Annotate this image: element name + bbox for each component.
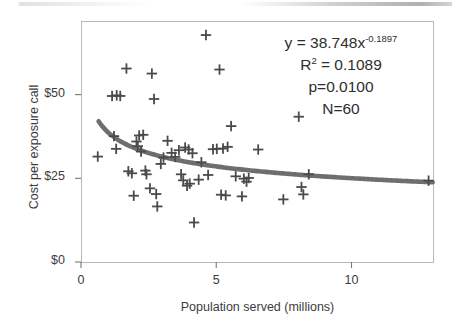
statistics-annotation: y = 38.748x-0.1897R2 = 0.1089p=0.0100N=6… bbox=[252, 32, 430, 120]
annotation-equation: y = 38.748x-0.1897 bbox=[252, 32, 430, 54]
annotation-text: R bbox=[300, 56, 311, 73]
data-point-marker bbox=[222, 142, 232, 152]
data-point-marker bbox=[145, 183, 155, 193]
annotation-tail: = 0.1089 bbox=[317, 56, 382, 73]
data-point-marker bbox=[93, 151, 103, 161]
data-point-marker bbox=[298, 189, 308, 199]
data-point-marker bbox=[121, 63, 131, 73]
data-point-marker bbox=[218, 143, 228, 153]
annotation-sample-size: N=60 bbox=[252, 98, 430, 120]
data-point-marker bbox=[193, 174, 203, 184]
data-point-marker bbox=[129, 191, 139, 201]
annotation-superscript: -0.1897 bbox=[365, 33, 397, 44]
data-point-marker bbox=[149, 94, 159, 104]
y-tick-label: $25 bbox=[25, 169, 65, 183]
data-point-marker bbox=[201, 30, 211, 40]
x-tick-label: 5 bbox=[196, 273, 236, 287]
data-point-marker bbox=[156, 159, 166, 169]
data-point-marker bbox=[214, 64, 224, 74]
data-point-marker bbox=[151, 189, 161, 199]
data-point-marker bbox=[147, 68, 157, 78]
data-point-marker bbox=[162, 136, 172, 146]
y-tick-label: $0 bbox=[25, 253, 65, 267]
data-point-marker bbox=[296, 182, 306, 192]
data-point-marker bbox=[176, 169, 186, 179]
data-point-marker bbox=[226, 121, 236, 131]
annotation-p-value: p=0.0100 bbox=[252, 76, 430, 98]
data-point-marker bbox=[253, 144, 263, 154]
data-point-marker bbox=[237, 191, 247, 201]
data-point-marker bbox=[189, 217, 199, 227]
data-point-marker bbox=[152, 201, 162, 211]
data-point-marker bbox=[231, 171, 241, 181]
annotation-text: N=60 bbox=[322, 100, 360, 117]
data-point-marker bbox=[221, 190, 231, 200]
annotation-r-squared: R2 = 0.1089 bbox=[252, 54, 430, 76]
data-point-marker bbox=[203, 170, 213, 180]
fit-curve bbox=[99, 121, 433, 182]
x-tick-label: 0 bbox=[61, 273, 101, 287]
y-tick-label: $50 bbox=[25, 86, 65, 100]
regression-curve bbox=[99, 121, 433, 182]
scatter-chart: Cost per exposure call Population served… bbox=[0, 0, 452, 335]
axis-tick-marks bbox=[75, 95, 351, 268]
x-tick-label: 10 bbox=[331, 273, 371, 287]
annotation-text: p=0.0100 bbox=[308, 78, 373, 95]
annotation-text: y = 38.748x bbox=[285, 34, 366, 51]
data-point-marker bbox=[278, 194, 288, 204]
data-point-marker bbox=[111, 144, 121, 154]
x-axis-title: Population served (millions) bbox=[81, 300, 434, 314]
